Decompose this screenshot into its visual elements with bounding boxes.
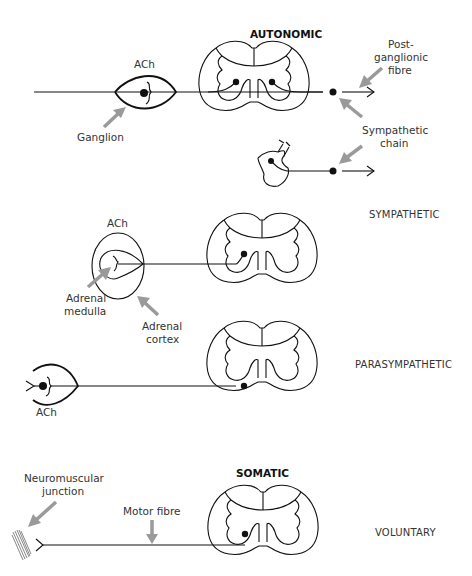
adrenal-synapse: [113, 256, 118, 271]
label-post-ganglionic-2: ganglionic: [374, 51, 428, 63]
nervous-system-diagram: AUTONOMIC ACh Ganglion Post- ganglionic …: [0, 0, 472, 576]
label-neuromuscular-junction: Neuromuscular: [24, 472, 105, 484]
motor-end-plate: [36, 539, 43, 551]
label-ganglion: Ganglion: [77, 131, 124, 143]
label-ach-top: ACh: [134, 58, 155, 70]
spinal-cord-autonomic: [199, 41, 323, 110]
medulla-pointer-arrow: [88, 273, 104, 287]
section-voluntary: VOLUNTARY: [375, 527, 436, 538]
label-motor-fibre: Motor fibre: [123, 505, 181, 517]
sympathetic-chain-node: [330, 168, 337, 175]
cortex-pointer-arrow: [144, 302, 158, 315]
label-adrenal-cortex-2: cortex: [146, 333, 179, 345]
muscle-fibres: [12, 530, 31, 560]
label-sympathetic-chain-2: chain: [380, 137, 408, 149]
header-autonomic: AUTONOMIC: [250, 28, 322, 40]
arrow-head: [146, 534, 158, 544]
header-somatic: SOMATIC: [236, 467, 289, 479]
spinal-cord-somatic: [208, 485, 318, 554]
parasympathetic-ganglion: [26, 365, 78, 405]
label-adrenal-cortex: Adrenal: [142, 320, 182, 332]
ganglion-cell-body: [140, 89, 148, 97]
label-sympathetic-chain: Sympathetic: [362, 124, 428, 136]
chain-pointer-arrow-2: [346, 146, 362, 158]
label-adrenal-medulla-2: medulla: [64, 305, 106, 317]
section-sympathetic: SYMPATHETIC: [369, 209, 440, 220]
postganglionic-pointer-arrow: [366, 68, 382, 82]
sympathetic-chain-node: [330, 89, 337, 96]
label-post-ganglionic-3: fibre: [388, 64, 412, 76]
label-post-ganglionic: Post-: [388, 38, 414, 50]
spinal-cord-sympathetic: [207, 213, 317, 282]
label-neuromuscular-junction-2: junction: [41, 485, 84, 497]
label-ach-para: ACh: [36, 406, 57, 418]
spinal-cord-parasympathetic: [207, 321, 317, 390]
chain-pointer-arrow-1: [346, 104, 362, 117]
neuromuscular-pointer-arrow: [36, 502, 56, 520]
label-adrenal-medulla: Adrenal: [66, 292, 106, 304]
section-parasympathetic: PARASYMPATHETIC: [355, 359, 452, 370]
spinal-cord-fragment: [258, 140, 290, 186]
label-ach-adrenal: ACh: [107, 217, 128, 229]
